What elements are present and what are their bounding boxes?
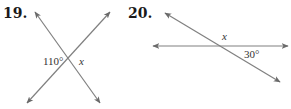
problem-19-angle-label: 110° bbox=[43, 55, 64, 67]
angle-diagrams: 110° x 30° x bbox=[0, 0, 291, 109]
problem-20-diagram: 30° x bbox=[153, 13, 288, 82]
problem-19-diagram: 110° x bbox=[27, 12, 110, 103]
problem-19-line-b bbox=[27, 12, 110, 103]
problem-20-diagonal-line bbox=[165, 13, 280, 82]
problem-20-unknown-label: x bbox=[221, 30, 227, 42]
problem-19-unknown-label: x bbox=[78, 55, 84, 67]
problem-20-angle-label: 30° bbox=[244, 48, 259, 60]
figure-canvas: 19. 20. 110° x 30° x bbox=[0, 0, 291, 109]
